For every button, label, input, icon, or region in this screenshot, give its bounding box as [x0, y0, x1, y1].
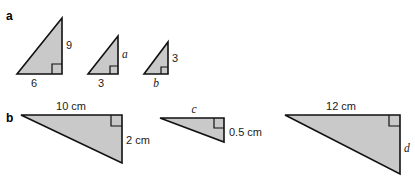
triangle-b-2-vertical-label: 0.5 cm — [229, 126, 262, 138]
triangle-b-1-vertical-label: 2 cm — [126, 134, 150, 146]
triangle-b-3-vertical-label: d — [404, 142, 410, 154]
part-label-a: a — [6, 9, 13, 23]
figure-root: a 9 6 a 3 3 b b 10 cm 2 cm c 0.5 cm 12 c… — [0, 0, 415, 179]
triangle-b-2-top-label: c — [191, 103, 196, 115]
triangle-a-2-shape — [88, 36, 118, 74]
triangle-a-3-vertical-label: 3 — [172, 52, 178, 64]
triangle-b-1-top-label: 10 cm — [56, 100, 86, 112]
triangle-b-3-shape — [285, 115, 400, 174]
triangle-b-1-shape — [21, 115, 122, 163]
triangle-a-2-vertical-label: a — [122, 48, 128, 60]
triangle-a-1-horizontal-label: 6 — [31, 77, 37, 89]
triangle-a-2-horizontal-label: 3 — [98, 77, 104, 89]
triangle-a-1-shape — [17, 18, 62, 74]
triangle-a-3-shape — [144, 42, 168, 74]
geometry-figure: a 9 6 a 3 3 b b 10 cm 2 cm c 0.5 cm 12 c… — [0, 0, 415, 179]
triangle-a-3-horizontal-label: b — [153, 77, 159, 89]
triangle-b-3-top-label: 12 cm — [326, 100, 356, 112]
triangle-a-1-vertical-label: 9 — [66, 39, 72, 51]
part-label-b: b — [6, 111, 13, 125]
